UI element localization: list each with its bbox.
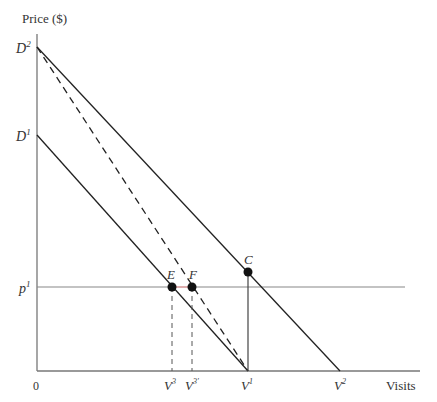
d1-label: D1: [15, 127, 31, 144]
point-f: [188, 283, 197, 292]
point-e: [168, 283, 177, 292]
demand-diagram: Price ($) Visits 0 D2 D1 p1 V3 V3′ V1 V2…: [0, 0, 437, 402]
point-c-label: C: [244, 252, 253, 267]
point-f-label: F: [188, 267, 198, 282]
v3prime-label: V3′: [185, 377, 199, 393]
v2-label: V2: [334, 377, 346, 393]
point-c: [244, 268, 253, 277]
p1-label: p1: [18, 279, 31, 296]
d2-label: D2: [15, 39, 31, 56]
demand-curve-d2: [37, 47, 340, 371]
point-e-label: E: [166, 267, 175, 282]
y-axis-label: Price ($): [22, 11, 67, 26]
x-axis-label: Visits: [386, 378, 416, 393]
v3-label: V3: [164, 377, 176, 393]
origin-label: 0: [33, 379, 39, 393]
v1-label: V1: [241, 377, 253, 393]
dashed-demand-curve: [37, 47, 248, 371]
demand-curve-d1: [37, 135, 248, 371]
